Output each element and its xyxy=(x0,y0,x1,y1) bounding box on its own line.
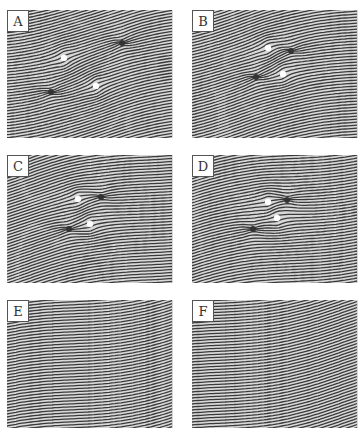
panel-label: B xyxy=(192,10,214,32)
dark-defect-marker xyxy=(48,89,54,95)
white-defect-marker xyxy=(280,71,286,77)
stripe-pattern xyxy=(7,10,173,138)
white-defect-marker xyxy=(61,55,67,61)
white-defect-marker xyxy=(265,199,271,205)
dark-defect-marker xyxy=(98,194,104,200)
stripe-pattern xyxy=(192,10,358,138)
white-defect-marker xyxy=(75,196,81,202)
panel-b: B xyxy=(192,10,358,138)
white-defect-marker xyxy=(274,215,280,221)
dark-defect-marker xyxy=(284,197,290,203)
panel-d: D xyxy=(192,155,358,283)
dark-defect-marker xyxy=(119,40,125,46)
white-defect-marker xyxy=(93,83,99,89)
panel-a: A xyxy=(7,10,173,138)
panel-e: E xyxy=(7,300,173,428)
stripe-pattern xyxy=(192,300,358,428)
dark-defect-marker xyxy=(250,226,256,232)
panel-label: C xyxy=(7,155,29,177)
stripe-pattern xyxy=(7,155,173,283)
panel-c: C xyxy=(7,155,173,283)
panel-label: A xyxy=(7,10,29,32)
panel-label: D xyxy=(192,155,214,177)
panel-label: F xyxy=(192,300,214,322)
dark-defect-marker xyxy=(253,74,259,80)
dark-defect-marker xyxy=(66,226,72,232)
dark-defect-marker xyxy=(288,48,294,54)
white-defect-marker xyxy=(265,45,271,51)
panel-label: E xyxy=(7,300,29,322)
panel-f: F xyxy=(192,300,358,428)
white-defect-marker xyxy=(87,221,93,227)
stripe-pattern xyxy=(7,300,173,428)
